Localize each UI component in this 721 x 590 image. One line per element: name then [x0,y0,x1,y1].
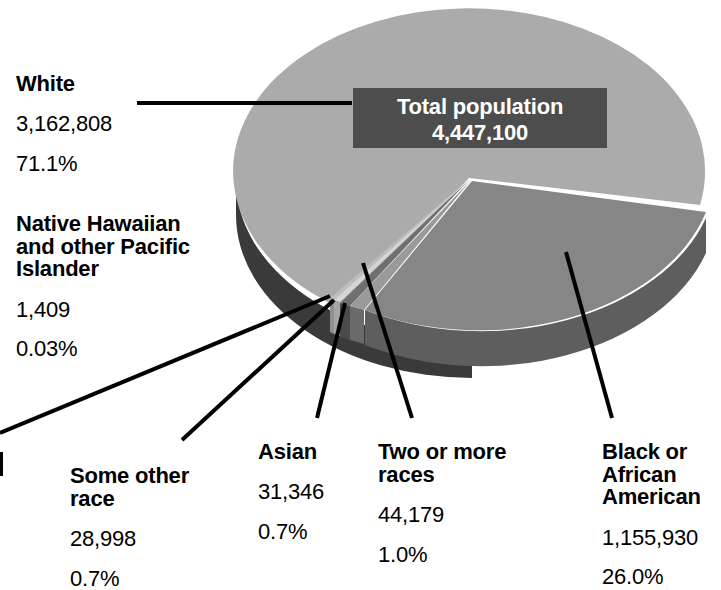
label-white: White 3,162,808 71.1% [16,56,226,192]
label-white-percent: 71.1% [16,153,226,176]
label-asian-value: 31,346 [258,481,378,504]
label-asian-name: Asian [258,441,378,464]
label-native-hawaiian-pacific-islander: Native Hawaiian and other Pacific Island… [16,196,231,378]
label-white-value: 3,162,808 [16,113,226,136]
label-nhpi-value: 1,409 [16,299,231,322]
label-white-name: White [16,73,226,96]
label-nhpi-percent: 0.03% [16,338,231,361]
total-population-label: Total population [353,94,607,120]
label-black-african-american-percent: 26.0% [602,566,721,589]
label-two-or-more-races-percent: 1.0% [378,544,568,567]
label-some-other-race: Some other race 28,998 0.7% [70,448,250,590]
pie-slice-tomr-side [350,306,364,344]
label-some-other-race-percent: 0.7% [70,568,250,590]
label-black-african-american: Black or African American 1,155,930 26.0… [602,424,721,590]
label-two-or-more-races-value: 44,179 [378,504,568,527]
label-two-or-more-races-name: Two or more races [378,441,568,487]
label-black-african-american-name: Black or African American [602,441,721,510]
label-some-other-race-value: 28,998 [70,528,250,551]
label-nhpi-name: Native Hawaiian and other Pacific Island… [16,213,231,282]
label-asian: Asian 31,346 0.7% [258,424,378,560]
label-asian-percent: 0.7% [258,521,378,544]
clipped-edge-glyph [0,452,3,476]
total-population-value: 4,447,100 [353,120,607,146]
label-two-or-more-races: Two or more races 44,179 1.0% [378,424,568,583]
label-black-african-american-value: 1,155,930 [602,527,721,550]
total-population-callout: Total population 4,447,100 [353,88,607,148]
label-some-other-race-name: Some other race [70,465,250,511]
